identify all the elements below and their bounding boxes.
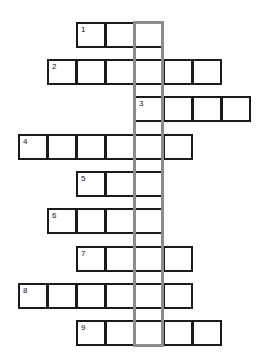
crossword-cell[interactable]	[163, 320, 193, 346]
crossword-cell[interactable]: 4	[18, 134, 48, 160]
crossword-cell[interactable]	[163, 96, 193, 122]
crossword-cell[interactable]: 7	[76, 246, 106, 272]
crossword-cell[interactable]	[192, 320, 222, 346]
crossword-cell[interactable]	[105, 134, 135, 160]
crossword-cell[interactable]	[134, 22, 164, 48]
crossword-cell[interactable]	[134, 283, 164, 309]
crossword-cell[interactable]	[192, 59, 222, 85]
crossword-cell[interactable]	[134, 320, 164, 346]
crossword-cell[interactable]	[105, 320, 135, 346]
crossword-cell[interactable]	[47, 283, 77, 309]
crossword-cell[interactable]	[76, 208, 106, 234]
clue-number: 8	[23, 287, 27, 295]
crossword-cell[interactable]: 5	[76, 171, 106, 197]
crossword-cell[interactable]	[163, 246, 193, 272]
crossword-cell[interactable]: 9	[76, 320, 106, 346]
crossword-cell[interactable]	[163, 283, 193, 309]
clue-number: 5	[81, 175, 85, 183]
crossword-cell[interactable]: 6	[47, 208, 77, 234]
crossword-cell[interactable]	[76, 59, 106, 85]
clue-number: 1	[81, 26, 85, 34]
clue-number: 2	[52, 63, 56, 71]
clue-number: 3	[139, 100, 143, 108]
crossword-cell[interactable]	[105, 208, 135, 234]
crossword-cell[interactable]	[163, 134, 193, 160]
clue-number: 7	[81, 250, 85, 258]
crossword-cell[interactable]	[105, 283, 135, 309]
clue-number: 9	[81, 324, 85, 332]
crossword-cell[interactable]	[47, 134, 77, 160]
crossword-cell[interactable]	[105, 246, 135, 272]
crossword-cell[interactable]	[134, 171, 164, 197]
clue-number: 6	[52, 212, 56, 220]
crossword-cell[interactable]	[105, 22, 135, 48]
crossword-cell[interactable]	[163, 59, 193, 85]
crossword-cell[interactable]: 3	[134, 96, 164, 122]
crossword-cell[interactable]	[192, 96, 222, 122]
crossword-cell[interactable]	[105, 59, 135, 85]
clue-number: 4	[23, 138, 27, 146]
crossword-cell[interactable]	[134, 134, 164, 160]
crossword-cell[interactable]	[76, 134, 106, 160]
crossword-cell[interactable]	[134, 246, 164, 272]
crossword-grid: 123456789	[0, 0, 262, 363]
crossword-cell[interactable]	[134, 59, 164, 85]
crossword-cell[interactable]	[76, 283, 106, 309]
crossword-cell[interactable]	[105, 171, 135, 197]
crossword-cell[interactable]	[221, 96, 251, 122]
crossword-cell[interactable]: 1	[76, 22, 106, 48]
crossword-cell[interactable]	[134, 208, 164, 234]
crossword-cell[interactable]: 8	[18, 283, 48, 309]
crossword-cell[interactable]: 2	[47, 59, 77, 85]
